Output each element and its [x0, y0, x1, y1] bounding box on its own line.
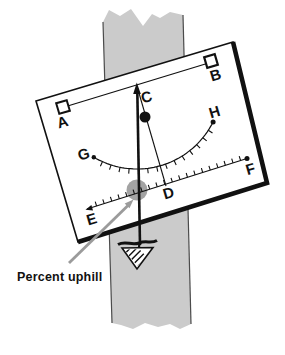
reading-marker	[127, 180, 148, 201]
pivot-dot	[140, 112, 151, 123]
caption: Percent uphill	[17, 270, 102, 284]
diagram-canvas: A B C D E F G H Percent uphill	[0, 0, 285, 355]
clinometer-diagram: A B C D E F G H Percent uphill	[0, 0, 285, 355]
card	[36, 42, 267, 242]
arc-end-dot-g	[92, 155, 96, 159]
